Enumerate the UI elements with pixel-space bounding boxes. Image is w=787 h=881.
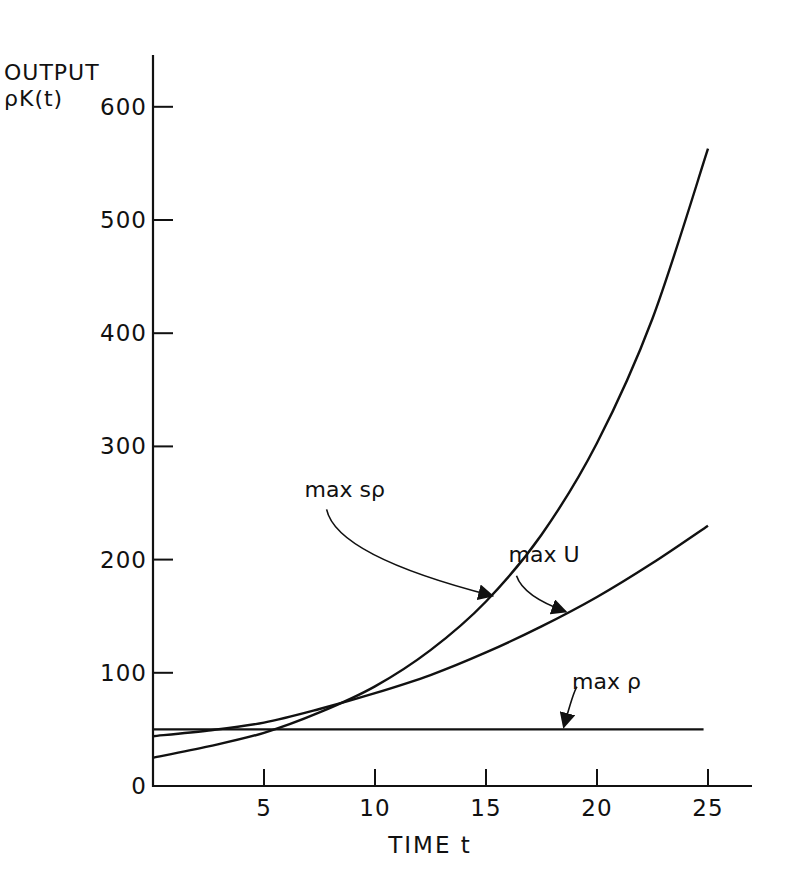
x-tick-label: 10 [359,795,390,821]
annotation-max-rho-label: max ρ [572,669,641,694]
annotation-max-s-rho-label: max sρ [305,477,385,502]
y-tick-label: 200 [100,547,147,573]
x-tick-label: 15 [470,795,501,821]
annotation-max-u-label: max U [509,542,580,567]
x-axis-title: TIME t [387,832,472,858]
y-tick-label: 500 [100,207,147,233]
y-tick-label: 100 [100,660,147,686]
annotation-max-u-arrow-icon [517,576,566,612]
y-tick-label: 400 [100,320,147,346]
series-max-s-rho-line [153,149,708,758]
y-tick-label: 300 [100,433,147,459]
x-tick-label: 25 [692,795,723,821]
y-tick-label: 0 [131,773,147,799]
series-max-u-line [153,526,708,737]
x-tick-label: 5 [256,795,272,821]
annotation-max-s-rho-arrow-icon [327,509,493,595]
x-tick-label: 20 [581,795,612,821]
y-tick-label: 600 [100,94,147,120]
line-chart: 0100200300400500600510152025TIME tmax sρ… [0,0,787,881]
